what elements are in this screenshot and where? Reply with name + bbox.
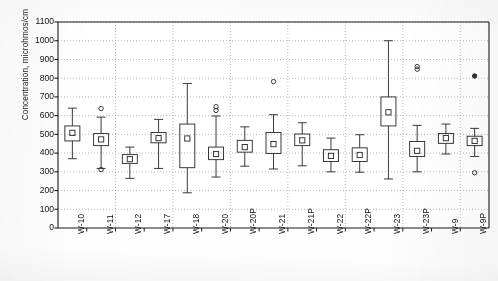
- x-tick-label-W-21P: W-21P: [306, 208, 316, 234]
- x-tick-label-W-20P: W-20P: [248, 208, 258, 234]
- x-tick-label-W-18: W-18: [191, 214, 201, 234]
- boxplot-chart: Concentration, microhmos/cm 010020030040…: [0, 0, 498, 281]
- x-tick-label-W-10: W-10: [76, 214, 86, 234]
- x-tick-label-W-23: W-23: [392, 214, 402, 234]
- x-tick-label-W-12: W-12: [133, 214, 143, 234]
- x-tick-label-W-21: W-21: [277, 214, 287, 234]
- x-tick-label-W-9: W-9: [450, 219, 460, 235]
- x-tick-label-W-20: W-20: [220, 214, 230, 234]
- x-tick-label-W-23P: W-23P: [421, 208, 431, 234]
- x-tick-label-W-17: W-17: [162, 214, 172, 234]
- x-tick-label-W-11: W-11: [105, 214, 115, 234]
- x-tick-label-W-22P: W-22P: [363, 208, 373, 234]
- outlier-marker-filled: [472, 74, 476, 78]
- x-tick-label-W-9P: W-9P: [478, 213, 488, 234]
- plot-surface: [0, 0, 498, 281]
- x-tick-label-W-22: W-22: [335, 214, 345, 234]
